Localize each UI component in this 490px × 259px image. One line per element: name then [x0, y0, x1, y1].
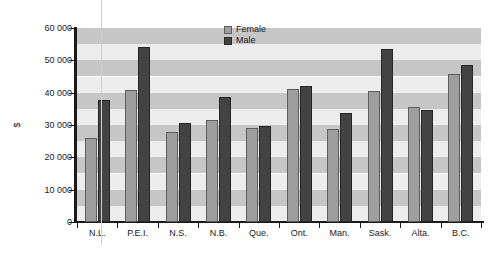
x-tick-label: B.C. [452, 228, 470, 238]
bar-male-sask [381, 49, 393, 222]
y-tick-mark [69, 222, 74, 223]
y-tick-mark [69, 60, 74, 61]
y-tick-mark [69, 157, 74, 158]
y-tick-label: 20 000 [44, 152, 72, 162]
legend-item-female: Female [224, 24, 266, 35]
x-tick-mark [158, 223, 159, 228]
vertical-guide-line [101, 0, 102, 245]
x-tick-mark [77, 223, 78, 228]
y-tick-label: 40 000 [44, 88, 72, 98]
x-tick-mark [279, 223, 280, 228]
x-tick-label: P.E.I. [127, 228, 148, 238]
bar-male-man [340, 113, 352, 222]
bar-series-layer [77, 28, 481, 222]
bar-female-que [246, 128, 258, 222]
bar-female-alta [408, 107, 420, 222]
y-tick-mark [69, 28, 74, 29]
x-tick-mark [117, 223, 118, 228]
bar-female-nl [85, 138, 97, 222]
bar-female-pei [125, 90, 137, 222]
x-tick-label: N.B. [210, 228, 228, 238]
bar-male-que [259, 126, 271, 222]
bar-female-sask [368, 91, 380, 222]
legend: Female Male [224, 24, 266, 46]
bar-female-nb [206, 120, 218, 222]
x-tick-label: N.L. [89, 228, 106, 238]
x-tick-label: Alta. [411, 228, 429, 238]
x-tick-mark [319, 223, 320, 228]
bar-female-bc [448, 74, 460, 222]
y-tick-mark [69, 125, 74, 126]
x-tick-mark [239, 223, 240, 228]
x-tick-label: Man. [330, 228, 350, 238]
bar-male-pei [138, 47, 150, 222]
bar-male-ont [300, 86, 312, 222]
x-tick-label: Ont. [291, 228, 308, 238]
bar-male-ns [179, 123, 191, 222]
y-tick-label: 50 000 [44, 55, 72, 65]
y-tick-mark [69, 93, 74, 94]
bar-female-ns [166, 132, 178, 222]
legend-label-male: Male [236, 35, 256, 46]
x-tick-mark [400, 223, 401, 228]
y-tick-label: 30 000 [44, 120, 72, 130]
x-tick-label: Sask. [369, 228, 392, 238]
x-tick-mark [360, 223, 361, 228]
bar-male-nl [98, 100, 110, 222]
y-tick-mark [69, 190, 74, 191]
bar-female-ont [287, 89, 299, 222]
male-swatch-icon [224, 37, 232, 45]
female-swatch-icon [224, 26, 232, 34]
legend-label-female: Female [236, 24, 266, 35]
x-tick-label: Que. [249, 228, 269, 238]
y-axis-tick-labels: 010 00020 00030 00040 00050 00060 000 [18, 0, 72, 259]
y-tick-label: 60 000 [44, 23, 72, 33]
x-tick-mark [441, 223, 442, 228]
x-tick-mark [198, 223, 199, 228]
x-tick-label: N.S. [169, 228, 187, 238]
x-tick-mark [481, 223, 482, 228]
y-tick-label: 10 000 [44, 185, 72, 195]
legend-item-male: Male [224, 35, 266, 46]
bar-chart: $ 010 00020 00030 00040 00050 00060 000 … [0, 0, 490, 259]
bar-male-bc [461, 65, 473, 222]
bar-male-alta [421, 110, 433, 222]
bar-female-man [327, 129, 339, 222]
bar-male-nb [219, 97, 231, 222]
